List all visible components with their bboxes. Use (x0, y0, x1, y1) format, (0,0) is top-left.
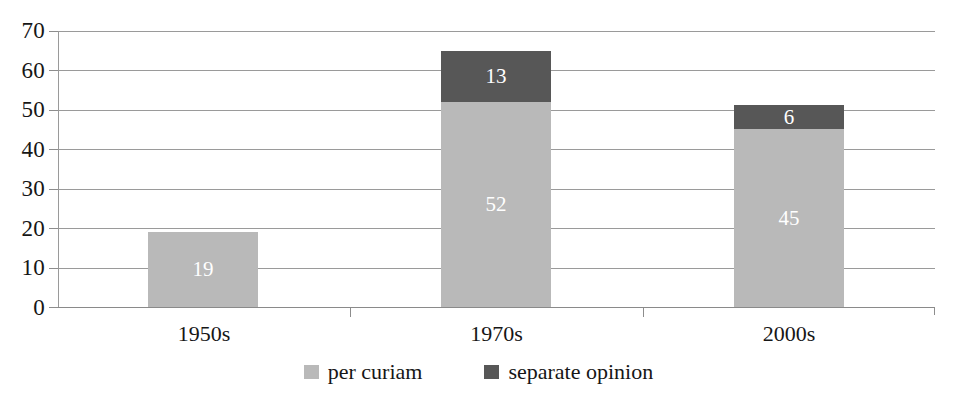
y-tick-30 (49, 189, 58, 190)
bar-value-per-curiam-1950s: 19 (193, 259, 214, 280)
bar-group-1950s[interactable]: 19 (148, 31, 258, 307)
y-axis-label-50: 50 (1, 98, 45, 121)
x-axis-tick-1 (350, 308, 351, 317)
bar-segment-per-curiam-2000s[interactable]: 45 (734, 129, 844, 307)
y-axis-label-0: 0 (1, 296, 45, 319)
y-axis-label-40: 40 (1, 138, 45, 161)
bar-value-per-curiam-2000s: 45 (779, 208, 800, 229)
y-axis-label-20: 20 (1, 217, 45, 240)
bar-value-separate-opinion-2000s: 6 (784, 107, 795, 128)
legend-swatch-separate-opinion-icon (484, 365, 499, 379)
y-tick-0 (49, 307, 58, 308)
bar-group-2000s[interactable]: 45 6 (734, 31, 844, 307)
bar-group-1970s[interactable]: 52 13 (441, 31, 551, 307)
y-axis-label-60: 60 (1, 59, 45, 82)
legend-label-per-curiam: per curiam (328, 360, 423, 384)
plot-area: 19 52 13 45 6 (58, 31, 935, 307)
y-tick-10 (49, 268, 58, 269)
x-axis-label-2000s: 2000s (643, 322, 935, 346)
y-tick-50 (49, 110, 58, 111)
y-tick-70 (49, 31, 58, 32)
y-axis-labels: 70 60 50 40 30 20 10 0 (0, 0, 45, 406)
y-tick-40 (49, 149, 58, 150)
x-axis-tick-2 (643, 308, 644, 317)
stacked-bar-chart: 70 60 50 40 30 20 10 0 19 (0, 0, 957, 406)
bar-segment-separate-opinion-2000s[interactable]: 6 (734, 105, 844, 129)
legend-label-separate-opinion: separate opinion (508, 360, 653, 384)
gridline-baseline-0 (58, 307, 935, 308)
x-axis-end-tick (934, 307, 935, 315)
chart-legend: per curiam separate opinion (0, 360, 957, 384)
legend-item-separate-opinion[interactable]: separate opinion (484, 360, 653, 384)
bar-segment-per-curiam-1970s[interactable]: 52 (441, 102, 551, 307)
bar-value-separate-opinion-1970s: 13 (486, 66, 507, 87)
legend-item-per-curiam[interactable]: per curiam (304, 360, 423, 384)
x-axis-label-1950s: 1950s (58, 322, 350, 346)
bar-segment-separate-opinion-1970s[interactable]: 13 (441, 51, 551, 102)
bar-value-per-curiam-1970s: 52 (486, 194, 507, 215)
legend-swatch-per-curiam-icon (304, 365, 319, 379)
y-axis-label-30: 30 (1, 177, 45, 200)
y-axis-label-10: 10 (1, 256, 45, 279)
x-axis-label-1970s: 1970s (350, 322, 643, 346)
y-tick-20 (49, 228, 58, 229)
y-axis-label-70: 70 (1, 19, 45, 42)
bar-segment-per-curiam-1950s[interactable]: 19 (148, 232, 258, 307)
y-tick-60 (49, 70, 58, 71)
